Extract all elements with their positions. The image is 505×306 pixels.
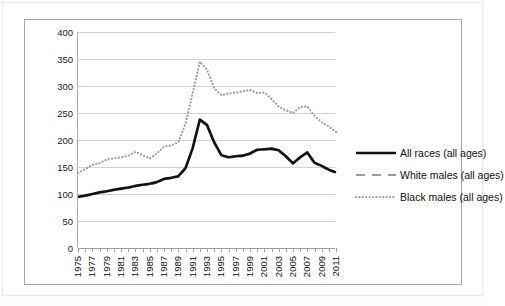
x-axis-tick-label: 2011 xyxy=(331,256,341,276)
x-axis-tick xyxy=(293,248,294,252)
y-axis-tick-label: 100 xyxy=(57,189,73,200)
x-axis-tick xyxy=(114,248,115,252)
x-axis-tick xyxy=(279,248,280,252)
y-axis-tick-label: 300 xyxy=(57,81,73,92)
x-axis-tick xyxy=(229,248,230,252)
y-axis-tick-label: 250 xyxy=(57,108,73,119)
legend-label: All races (all ages) xyxy=(400,147,486,159)
x-axis-tick xyxy=(307,248,308,252)
x-axis-tick-label: 1997 xyxy=(231,256,241,277)
x-axis-tick xyxy=(243,248,244,252)
y-axis-tick-label: 350 xyxy=(57,54,73,65)
x-axis-tick xyxy=(221,248,222,252)
x-axis-tick-label: 1981 xyxy=(116,256,126,277)
legend-line-icon xyxy=(355,169,397,181)
x-axis-tick-label: 1987 xyxy=(159,256,169,277)
x-axis-tick xyxy=(128,248,129,252)
x-axis-tick xyxy=(150,248,151,252)
x-axis-tick xyxy=(286,248,287,252)
x-axis-tick-label: 1975 xyxy=(73,256,83,277)
x-axis-tick xyxy=(100,248,101,252)
plot-area: 050100150200250300350400 197519771979198… xyxy=(77,32,335,248)
y-axis-tick-label: 400 xyxy=(57,27,73,38)
x-axis-tick-label: 1977 xyxy=(87,256,97,277)
series-line xyxy=(78,119,336,196)
x-axis-tick xyxy=(171,248,172,252)
series-lines xyxy=(78,32,336,248)
x-axis-tick xyxy=(143,248,144,252)
legend-label: White males (all ages) xyxy=(400,169,504,181)
x-axis-tick xyxy=(135,248,136,252)
x-axis-ticks xyxy=(78,248,335,253)
x-axis-tick-label: 1983 xyxy=(130,256,140,277)
x-axis-tick xyxy=(264,248,265,252)
x-axis-tick xyxy=(92,248,93,252)
x-axis-tick xyxy=(200,248,201,252)
y-axis-tick-label: 50 xyxy=(62,216,73,227)
x-axis-tick xyxy=(329,248,330,252)
x-axis-tick xyxy=(315,248,316,252)
x-axis-tick xyxy=(336,248,337,252)
x-axis-tick xyxy=(257,248,258,252)
x-axis-tick xyxy=(157,248,158,252)
x-axis-tick xyxy=(250,248,251,252)
legend-item[interactable]: White males (all ages) xyxy=(355,164,505,186)
legend-line-icon xyxy=(355,147,397,159)
legend-item[interactable]: Black males (all ages) xyxy=(355,186,505,208)
x-axis-tick xyxy=(322,248,323,252)
x-axis-tick xyxy=(193,248,194,252)
x-axis-tick-label: 1993 xyxy=(202,256,212,277)
x-axis-tick xyxy=(85,248,86,252)
x-axis-tick-label: 1995 xyxy=(216,256,226,277)
x-axis-tick-label: 1989 xyxy=(173,256,183,277)
x-axis-tick xyxy=(178,248,179,252)
x-axis-tick-label: 1985 xyxy=(145,256,155,277)
series-line xyxy=(78,62,336,173)
x-axis-tick-label: 2009 xyxy=(317,256,327,277)
x-axis-tick-label: 2005 xyxy=(288,256,298,277)
chart-container: 050100150200250300350400 197519771979198… xyxy=(24,19,462,285)
y-axis-tick-label: 0 xyxy=(68,243,73,254)
x-axis-tick xyxy=(272,248,273,252)
x-axis-tick-label: 1999 xyxy=(245,256,255,277)
legend-label: Black males (all ages) xyxy=(400,191,503,203)
x-axis-tick-label: 2001 xyxy=(259,256,269,277)
x-axis-tick xyxy=(107,248,108,252)
y-axis-tick-label: 150 xyxy=(57,162,73,173)
legend-line-icon xyxy=(355,191,397,203)
chart-legend: All races (all ages)White males (all age… xyxy=(355,142,505,208)
x-axis-tick xyxy=(121,248,122,252)
x-axis-tick-label: 2003 xyxy=(274,256,284,277)
x-axis-tick-label: 1979 xyxy=(102,256,112,277)
x-axis-tick-label: 2007 xyxy=(302,256,312,277)
legend-item[interactable]: All races (all ages) xyxy=(355,142,505,164)
x-axis-tick xyxy=(214,248,215,252)
y-axis-tick-label: 200 xyxy=(57,135,73,146)
x-axis-tick xyxy=(236,248,237,252)
x-axis-tick xyxy=(207,248,208,252)
x-axis-tick xyxy=(186,248,187,252)
x-axis-tick-label: 1991 xyxy=(188,256,198,277)
x-axis-tick xyxy=(164,248,165,252)
x-axis-tick xyxy=(78,248,79,252)
x-axis-tick xyxy=(300,248,301,252)
